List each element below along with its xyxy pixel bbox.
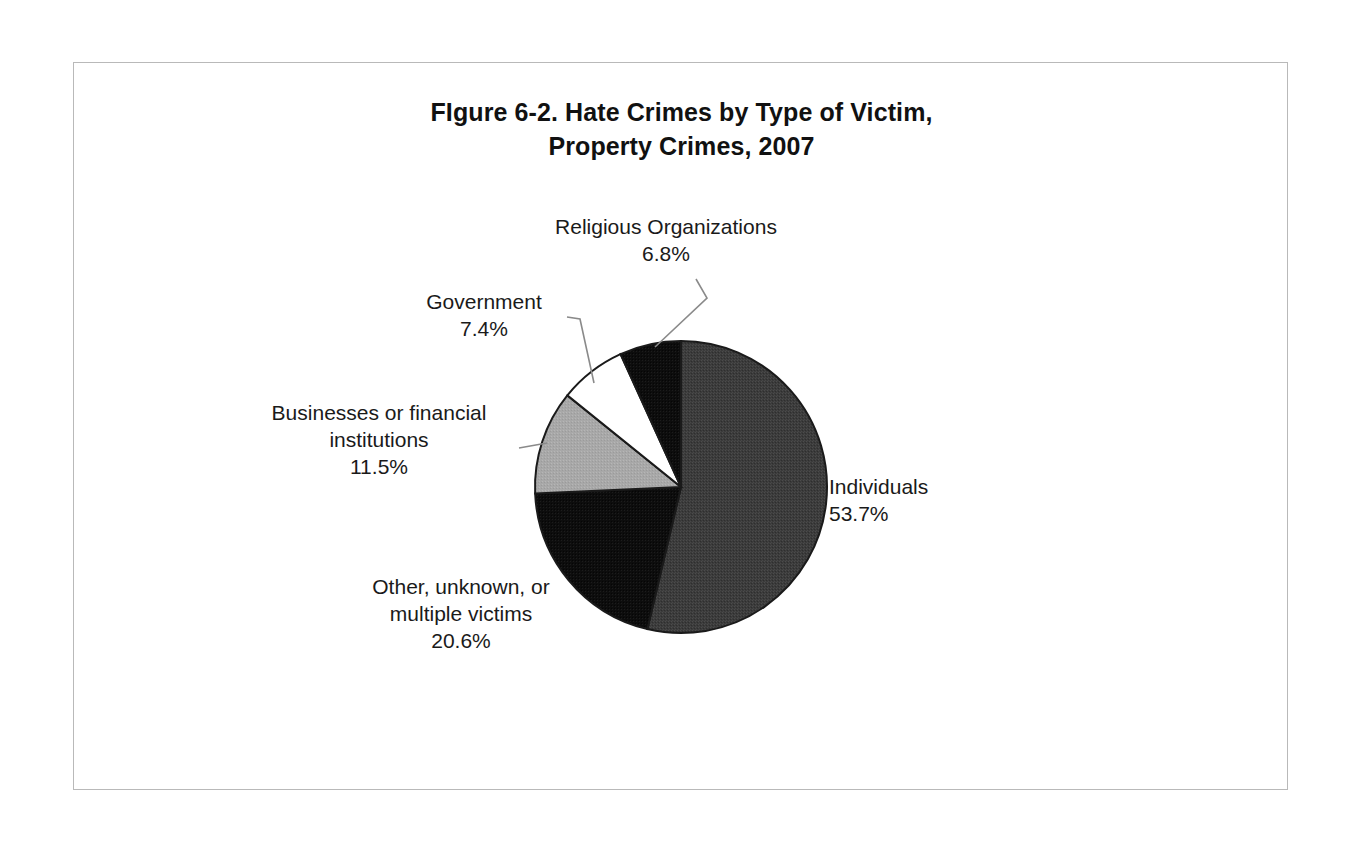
pie-label-businesses-name-line-1: Businesses or financial xyxy=(224,399,534,426)
pie-label-other-unknown-multiple: Other, unknown, or multiple victims 20.6… xyxy=(306,573,616,654)
pie-label-religious-organizations-name: Religious Organizations xyxy=(506,213,826,240)
pie-label-individuals-value: 53.7% xyxy=(829,500,1049,527)
leader-line-religious-organizations xyxy=(655,279,707,347)
pie-label-religious-organizations-value: 6.8% xyxy=(506,240,826,267)
pie-chart: FIgure 6-2. Hate Crimes by Type of Victi… xyxy=(74,63,1289,791)
pie-label-other-name-line-2: multiple victims xyxy=(306,600,616,627)
pie-label-religious-organizations: Religious Organizations 6.8% xyxy=(506,213,826,267)
pie-label-government: Government 7.4% xyxy=(364,288,604,342)
pie-label-businesses-value: 11.5% xyxy=(224,453,534,480)
pie-label-other-value: 20.6% xyxy=(306,627,616,654)
pie-label-individuals: Individuals 53.7% xyxy=(829,473,1049,527)
pie-label-government-value: 7.4% xyxy=(364,315,604,342)
figure-frame: FIgure 6-2. Hate Crimes by Type of Victi… xyxy=(73,62,1288,790)
pie-label-government-name: Government xyxy=(364,288,604,315)
pie-label-businesses-name-line-2: institutions xyxy=(224,426,534,453)
pie-label-businesses: Businesses or financial institutions 11.… xyxy=(224,399,534,480)
pie-label-other-name-line-1: Other, unknown, or xyxy=(306,573,616,600)
pie-label-individuals-name: Individuals xyxy=(829,473,1049,500)
